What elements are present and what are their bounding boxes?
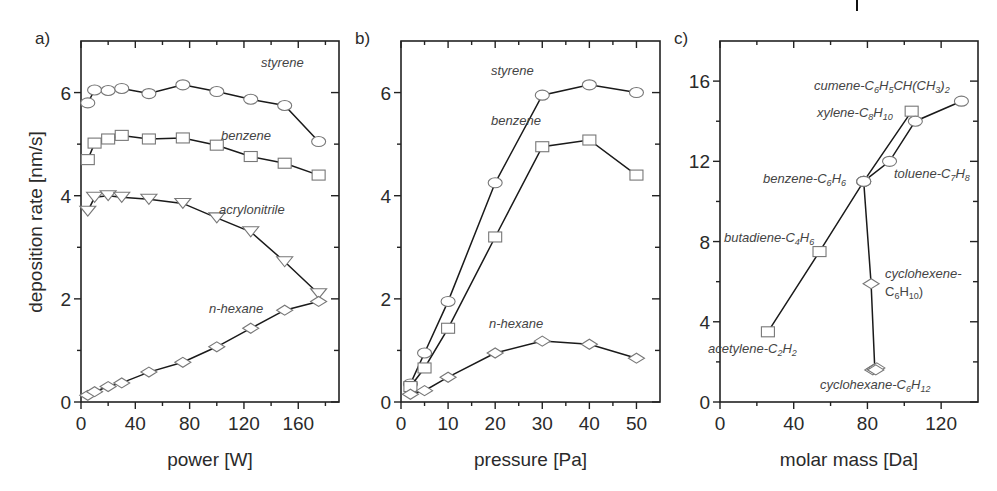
series-n-hexane: n-hexane xyxy=(80,296,327,400)
circle-marker xyxy=(418,348,432,358)
square-marker xyxy=(536,142,549,152)
square-marker xyxy=(88,138,101,148)
y-axis-title: deposition rate [nm/s] xyxy=(25,131,46,313)
x-tick-label: 40 xyxy=(125,413,146,434)
diamond-marker xyxy=(534,336,550,346)
square-marker xyxy=(813,247,826,257)
series-benzene-cyclohexene-cyclohexane: cyclohexene-C6H10)cyclohexane-C6H12 xyxy=(820,176,962,394)
panel-label: a) xyxy=(35,29,50,48)
panel-label: c) xyxy=(674,29,688,48)
series-label: cumene-C6H5CH(CH3)2 xyxy=(814,78,950,95)
panel-b-pressure: 010203040500246b)pressure [Pa]styreneben… xyxy=(355,29,660,470)
triangle-down-marker xyxy=(80,206,96,216)
x-tick-label: 20 xyxy=(485,413,506,434)
circle-marker xyxy=(210,87,224,97)
circle-marker xyxy=(81,98,95,108)
square-marker xyxy=(312,170,325,180)
y-tick-label: 0 xyxy=(699,392,710,413)
x-tick-label: 0 xyxy=(396,413,407,434)
circle-marker xyxy=(244,94,258,104)
series-line xyxy=(410,85,636,384)
x-tick-label: 120 xyxy=(228,413,260,434)
triangle-down-marker xyxy=(243,227,259,237)
cursor-mark xyxy=(856,0,858,11)
y-tick-label: 12 xyxy=(689,151,710,172)
y-tick-label: 0 xyxy=(60,392,71,413)
square-marker xyxy=(442,323,455,333)
series-styrene: styrene xyxy=(403,63,643,389)
x-tick-label: 80 xyxy=(857,413,878,434)
y-tick-label: 8 xyxy=(699,232,710,253)
y-tick-label: 2 xyxy=(380,289,391,310)
x-tick-label: 10 xyxy=(438,413,459,434)
ellipse-marker xyxy=(908,116,922,126)
circle-marker xyxy=(142,89,156,99)
x-tick-label: 40 xyxy=(579,413,600,434)
circle-marker xyxy=(101,86,115,96)
circle-marker xyxy=(629,88,643,98)
circle-marker xyxy=(115,83,129,93)
diamond-marker xyxy=(141,367,157,377)
panel-a-power: 040801201600246a)power [W]styrenebenzene… xyxy=(35,29,339,470)
circle-marker xyxy=(88,85,102,95)
x-axis-title: power [W] xyxy=(167,449,253,470)
square-marker xyxy=(630,170,643,180)
x-tick-label: 0 xyxy=(715,413,726,434)
circle-marker xyxy=(312,137,326,147)
series-acetylene-butadiene-benzene-xylene: acetylene-C2H2butadiene-C4H6benzene-C6H6… xyxy=(708,105,918,358)
series-label: styrene xyxy=(491,63,534,78)
series-line xyxy=(410,341,636,394)
diamond-marker xyxy=(863,279,879,289)
series-label: benzene xyxy=(491,113,541,128)
circle-marker xyxy=(176,80,190,90)
x-tick-label: 40 xyxy=(783,413,804,434)
series-n-hexane: n-hexane xyxy=(402,316,644,399)
ellipse-marker xyxy=(857,176,871,186)
series-label: acetylene-C2H2 xyxy=(708,341,797,358)
x-tick-label: 160 xyxy=(282,413,314,434)
square-marker xyxy=(102,134,115,144)
series-line xyxy=(88,135,319,175)
series-label: styrene xyxy=(261,55,304,70)
x-tick-label: 0 xyxy=(76,413,87,434)
y-tick-label: 4 xyxy=(60,186,71,207)
panel-c-molar-mass: 040801200481216c)molar mass [Da]acetylen… xyxy=(674,29,978,470)
x-tick-label: 80 xyxy=(179,413,200,434)
series-acrylonitrile: acrylonitrile xyxy=(80,191,327,299)
panel-label: b) xyxy=(355,29,370,48)
figure: 040801201600246a)power [W]styrenebenzene… xyxy=(0,0,997,491)
series-line xyxy=(410,140,636,387)
series-label: cyclohexane-C6H12 xyxy=(820,377,930,394)
circle-marker xyxy=(278,100,292,110)
x-tick-label: 50 xyxy=(626,413,647,434)
circle-marker xyxy=(535,90,549,100)
series-label: acrylonitrile xyxy=(219,202,285,217)
x-axis-title: pressure [Pa] xyxy=(474,449,587,470)
series-label: butadiene-C4H6 xyxy=(724,230,814,247)
series-label: n-hexane xyxy=(209,301,263,316)
ellipse-marker xyxy=(883,156,897,166)
x-tick-label: 30 xyxy=(532,413,553,434)
y-tick-label: 0 xyxy=(380,392,391,413)
y-tick-label: 4 xyxy=(699,312,710,333)
square-marker xyxy=(905,106,918,116)
square-marker xyxy=(418,363,431,373)
series-line xyxy=(864,181,875,369)
square-marker xyxy=(142,134,155,144)
x-axis-title: molar mass [Da] xyxy=(780,449,918,470)
series-label: C6H10) xyxy=(885,284,923,301)
y-tick-label: 4 xyxy=(380,186,391,207)
series-label: n-hexane xyxy=(489,316,543,331)
square-marker xyxy=(81,155,94,165)
square-marker xyxy=(583,135,596,145)
square-marker xyxy=(489,232,502,242)
square-marker xyxy=(176,133,189,143)
square-marker xyxy=(278,158,291,168)
plot-frame xyxy=(401,41,660,402)
x-tick-label: 120 xyxy=(925,413,957,434)
series-label: cyclohexene- xyxy=(885,266,962,281)
circle-marker xyxy=(441,296,455,306)
series-benzene: benzene xyxy=(81,128,325,180)
y-tick-label: 6 xyxy=(380,83,391,104)
ellipse-marker xyxy=(954,96,968,106)
